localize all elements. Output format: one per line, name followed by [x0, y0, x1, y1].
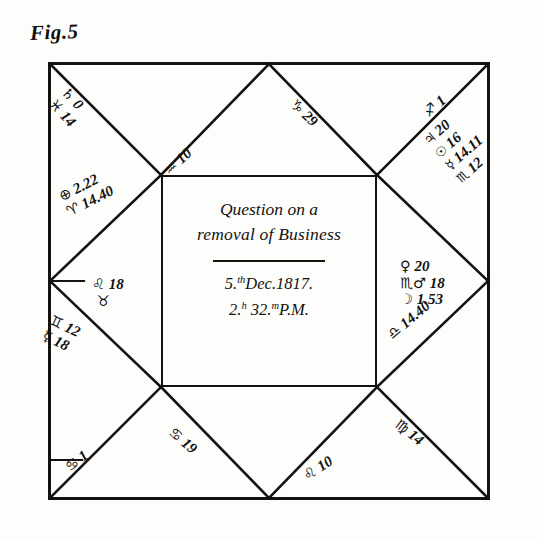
time-minute-suffix: m	[271, 300, 279, 311]
label-leo-taurus: ♌ 18 ♉	[92, 276, 124, 309]
horary-chart: Question on a removal of Business 5.thDe…	[48, 62, 490, 500]
inscription-time: 2.h 32.mP.M.	[229, 297, 309, 323]
chart-inscription: Question on a removal of Business 5.thDe…	[161, 175, 377, 387]
inscription-line-2: removal of Business	[197, 222, 341, 247]
inscription-date: 5.thDec.1817.	[225, 271, 313, 297]
time-hour-suffix: h	[241, 300, 246, 311]
spoke-bottom-right	[269, 387, 377, 498]
label-leo-row: ♌ 18	[92, 276, 124, 293]
figure-caption: Fig.5	[30, 19, 80, 46]
inscription-line-1: Question on a	[220, 197, 318, 222]
spoke-top-right	[269, 64, 377, 175]
figure-page: Fig.5 Question on a removal of Busin	[0, 0, 538, 539]
label-mars-scorpio-row: ♏♂ 18	[400, 275, 445, 292]
moon-icon: ☽	[400, 291, 413, 307]
time-minute: 32.	[251, 300, 272, 319]
leo-node-icon: ♌	[92, 276, 105, 292]
label-venus-row: ♀ 20	[400, 258, 445, 275]
label-taurus-row: ♉	[92, 293, 124, 310]
date-month-year: Dec.1817.	[245, 274, 313, 293]
venus-icon: ♀	[400, 258, 411, 274]
time-hour: 2.	[229, 300, 241, 319]
scorpio-mars-icon: ♏♂	[400, 275, 426, 291]
taurus-icon: ♉	[97, 293, 110, 309]
diagonal-bottom-left	[50, 387, 161, 498]
diagonal-bottom-right	[377, 387, 488, 498]
time-period: P.M.	[279, 300, 309, 319]
date-day: 5.	[225, 274, 237, 293]
inscription-divider	[213, 260, 325, 262]
